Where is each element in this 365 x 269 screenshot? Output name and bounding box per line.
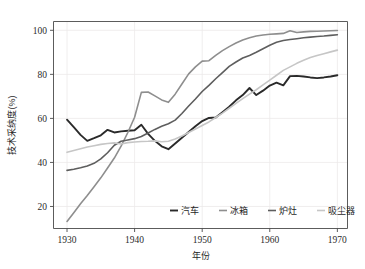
x-tick-label-1970: 1970	[328, 235, 347, 245]
x-tick-label-1930: 1930	[58, 235, 77, 245]
legend-label-冰箱: 冰箱	[230, 205, 248, 216]
y-tick-label-100: 100	[33, 26, 48, 36]
y-tick-label-40: 40	[38, 158, 48, 168]
chart-canvas: 2040608010019301940195019601970 年份技术采纳度(…	[0, 0, 365, 269]
x-tick-label-1940: 1940	[125, 235, 144, 245]
y-tick-label-20: 20	[38, 202, 48, 212]
legend-label-炉灶: 炉灶	[279, 205, 297, 216]
legend-label-吸尘器: 吸尘器	[328, 206, 355, 216]
y-axis-title: 技术采纳度(%)	[6, 96, 17, 155]
x-axis-title: 年份	[192, 250, 210, 261]
y-tick-label-80: 80	[38, 70, 48, 80]
y-tick-label-60: 60	[38, 114, 48, 124]
line-chart-figure: 2040608010019301940195019601970 年份技术采纳度(…	[0, 0, 365, 269]
legend-label-汽车: 汽车	[181, 205, 199, 216]
x-tick-label-1960: 1960	[260, 235, 279, 245]
x-tick-label-1950: 1950	[193, 235, 212, 245]
